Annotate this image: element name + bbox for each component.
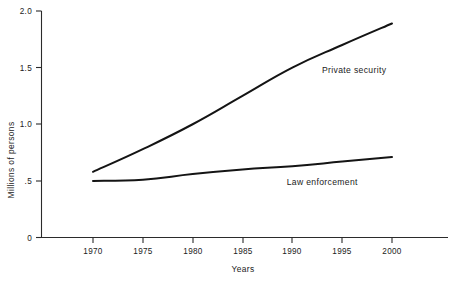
y-tick-label-1-5: 1.5: [20, 64, 32, 73]
y-axis-title: Millions of persons: [6, 122, 16, 199]
x-tick-label-1985: 1985: [233, 247, 253, 256]
series-label-law-enforcement: Law enforcement: [287, 177, 358, 187]
series-line-private-security: [93, 23, 392, 171]
x-tick-label-1975: 1975: [133, 247, 153, 256]
series-label-private-security: Private security: [322, 65, 387, 75]
x-tick-group: [93, 238, 392, 244]
chart-svg: 2.0 1.5 1.0 .5 0 Millions of persons 197…: [0, 0, 451, 281]
x-tick-label-1990: 1990: [282, 247, 302, 256]
x-tick-label-1970: 1970: [83, 247, 103, 256]
y-tick-label-0-5: .5: [25, 177, 33, 186]
x-tick-label-1980: 1980: [183, 247, 203, 256]
y-tick-label-2-0: 2.0: [20, 7, 32, 16]
x-tick-label-1995: 1995: [332, 247, 352, 256]
x-tick-label-2000: 2000: [382, 247, 402, 256]
x-axis-title: Years: [231, 264, 254, 274]
line-chart: 2.0 1.5 1.0 .5 0 Millions of persons 197…: [0, 0, 451, 281]
y-tick-label-1-0: 1.0: [20, 120, 32, 129]
y-tick-group: [36, 11, 42, 238]
y-tick-label-0: 0: [27, 234, 32, 243]
